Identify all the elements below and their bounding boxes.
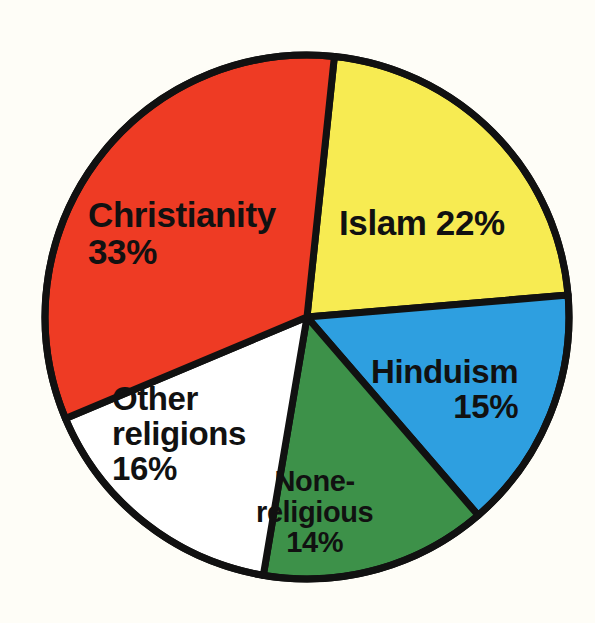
- slice-label-christianity-name: Christianity: [88, 196, 276, 233]
- slice-label-christianity-value: 33%: [88, 233, 276, 270]
- slice-label-islam-name-value: Islam 22%: [339, 204, 505, 241]
- slice-label-hinduism: Hinduism 15%: [371, 355, 518, 425]
- slice-label-islam: Islam 22%: [339, 204, 505, 241]
- slice-label-other-religions-name-part1: Other: [112, 382, 246, 417]
- slice-label-christianity: Christianity 33%: [88, 196, 276, 270]
- slice-label-other-religions-value: 16%: [112, 452, 246, 487]
- slice-label-nonreligious-name-part2: religious: [256, 497, 373, 528]
- slice-label-other-religions: Other religions 16%: [112, 382, 246, 487]
- slice-label-nonreligious: None- religious 14%: [256, 466, 373, 558]
- slice-label-hinduism-name: Hinduism: [371, 355, 518, 390]
- slice-label-hinduism-value: 15%: [371, 390, 518, 425]
- pie-slice-islam: [307, 56, 568, 317]
- slice-label-nonreligious-name-part1: None-: [256, 466, 373, 497]
- pie-chart: Christianity 33% Islam 22% Hinduism 15% …: [0, 0, 595, 623]
- slice-label-nonreligious-value: 14%: [256, 527, 373, 558]
- slice-label-other-religions-name-part2: religions: [112, 417, 246, 452]
